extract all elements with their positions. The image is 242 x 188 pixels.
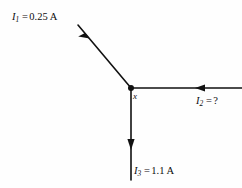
value-i1: 0.25 A <box>29 11 57 22</box>
equals-i2: = <box>203 95 213 106</box>
arrowhead-i2-icon <box>195 84 205 91</box>
equals-i3: = <box>141 165 151 176</box>
label-current-i3: I3=1.1 A <box>134 166 174 177</box>
label-current-i1: I1=0.25 A <box>12 12 57 23</box>
arrowhead-i3-icon <box>127 139 134 150</box>
label-current-i2: I2=? <box>196 96 218 107</box>
value-i2: ? <box>213 95 218 106</box>
current-junction-figure: I1=0.25 A I2=? I3=1.1 A x <box>0 0 242 188</box>
junction-node-label: x <box>133 92 137 101</box>
circuit-diagram-svg <box>0 0 242 188</box>
equals-i1: = <box>19 11 29 22</box>
value-i3: 1.1 A <box>151 165 174 176</box>
